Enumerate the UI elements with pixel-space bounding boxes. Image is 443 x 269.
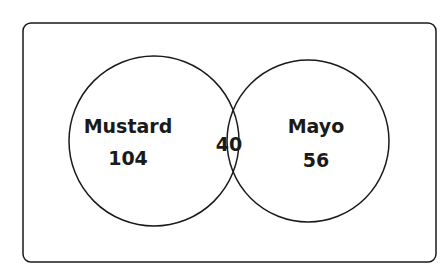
mayo-count: 56 [303, 149, 329, 171]
mayo-label: Mayo [288, 115, 345, 137]
intersection-count: 40 [216, 133, 242, 155]
venn-diagram: Mustard 104 40 Mayo 56 [0, 0, 443, 269]
mustard-count: 104 [108, 147, 148, 169]
mustard-circle [69, 56, 239, 226]
mustard-label: Mustard [84, 115, 173, 137]
mayo-circle [227, 60, 389, 222]
